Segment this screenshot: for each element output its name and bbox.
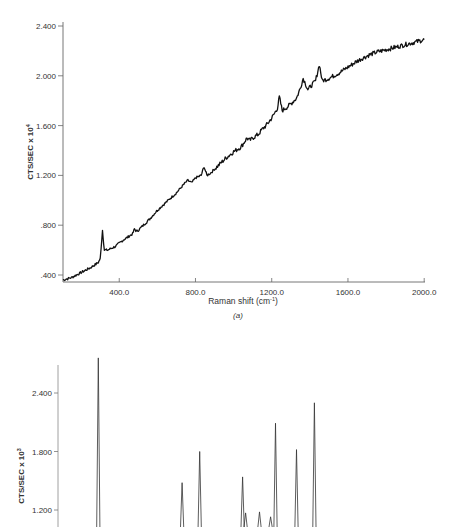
chart-a-x-tick-label: 1600.0 <box>336 288 361 297</box>
chart-b-peak <box>274 423 277 527</box>
chart-b-y-tick-label: 2.400 <box>32 389 53 398</box>
chart-a: .400.8001.2001.6002.0002.400 400.0800.01… <box>25 22 437 320</box>
chart-a-y-tick-label: 2.400 <box>36 22 57 31</box>
chart-a-x-label: Raman shift (cm-1) <box>208 296 278 306</box>
chart-a-y-tick-label: 2.000 <box>36 72 57 81</box>
chart-a-y-tick-label: 1.600 <box>36 122 57 131</box>
chart-b-y-label-exponent: 3 <box>16 448 22 451</box>
chart-b-y-label-text: CTS/SEC x 10 <box>17 451 26 504</box>
raman-spectra-figure: .400.8001.2001.6002.0002.400 400.0800.01… <box>0 0 459 527</box>
chart-a-y-ticks: .400.8001.2001.6002.0002.400 <box>36 22 63 280</box>
chart-b-y-tick-label: 1.800 <box>32 448 53 457</box>
chart-a-y-label-text: CTS/SEC x 10 <box>26 127 35 180</box>
chart-a-x-label-close: ) <box>275 296 278 306</box>
chart-b-y-label: CTS/SEC x 103 <box>16 448 26 504</box>
chart-b-peak <box>198 452 201 527</box>
chart-b-peak <box>269 517 272 527</box>
chart-a-caption: (a) <box>233 311 243 320</box>
chart-b-peak <box>258 512 261 527</box>
chart-b-peak <box>295 450 298 527</box>
chart-b-peak <box>241 477 244 527</box>
chart-b-y-tick-label: 1.200 <box>32 506 53 515</box>
chart-b-y-ticks: 1.2001.8002.400 <box>32 389 58 515</box>
chart-a-y-label: CTS/SEC x 104 <box>25 123 35 179</box>
chart-b-peak <box>313 403 316 527</box>
chart-a-y-label-exponent: 4 <box>25 123 31 127</box>
chart-a-x-tick-label: 400.0 <box>109 288 130 297</box>
chart-a-spectrum-line <box>63 39 424 281</box>
chart-a-x-label-text: Raman shift (cm <box>208 296 270 306</box>
chart-a-y-tick-label: 1.200 <box>36 171 57 180</box>
figure: .400.8001.2001.6002.0002.400 400.0800.01… <box>0 0 459 527</box>
chart-b-peak <box>97 358 100 527</box>
chart-a-x-ticks: 400.0800.01200.01600.02000.0 <box>109 278 437 297</box>
chart-b: 1.2001.8002.400 CTS/SEC x 103 <box>16 358 316 527</box>
chart-b-spectrum-peaks <box>97 358 316 527</box>
chart-b-peak <box>181 483 184 527</box>
chart-a-x-tick-label: 2000.0 <box>412 288 437 297</box>
chart-a-y-tick-label: .400 <box>40 271 56 280</box>
chart-a-y-tick-label: .800 <box>40 221 56 230</box>
chart-a-x-tick-label: 800.0 <box>185 288 206 297</box>
chart-b-peak <box>244 513 247 527</box>
